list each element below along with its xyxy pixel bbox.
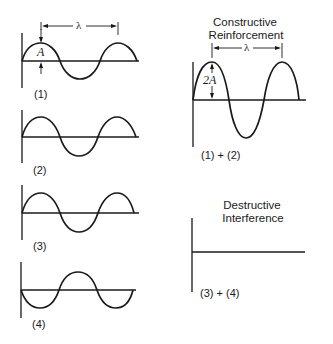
wave-panel-3: (3) xyxy=(22,185,139,252)
sum-label: (1) + (2) xyxy=(201,149,240,161)
wavelength-indicator: λ xyxy=(41,19,118,35)
constructive-title-line1: Constructive xyxy=(213,16,277,28)
panel-label: (2) xyxy=(33,164,46,176)
wave-panel-1: λ A (1) xyxy=(22,19,139,100)
wave-interference-diagram: λ A (1) (2) (3) (4) Constructive Rein xyxy=(0,0,333,344)
wave-panel-2: (2) xyxy=(22,110,139,176)
panel-label: (4) xyxy=(32,318,45,330)
constructive-title-line2: Reinforcement xyxy=(209,29,285,41)
sum-label: (3) + (4) xyxy=(200,287,239,299)
wave-panel-4: (4) xyxy=(21,262,136,330)
destructive-panel: Destructive Interference (3) + (4) xyxy=(192,199,305,299)
constructive-panel: Constructive Reinforcement λ 2A (1) + (2… xyxy=(193,16,306,161)
panel-label: (1) xyxy=(34,88,47,100)
destructive-title-line1: Destructive xyxy=(223,199,281,211)
wavelength-label: λ xyxy=(244,41,250,53)
amplitude-indicator: A xyxy=(36,29,45,74)
wavelength-indicator: λ xyxy=(212,41,282,58)
amplitude-label: 2A xyxy=(203,73,217,87)
wavelength-label: λ xyxy=(76,19,82,31)
amplitude-label: A xyxy=(36,45,45,59)
panel-label: (3) xyxy=(33,240,46,252)
destructive-title-line2: Interference xyxy=(222,212,283,224)
amplitude-indicator: 2A xyxy=(203,63,217,99)
